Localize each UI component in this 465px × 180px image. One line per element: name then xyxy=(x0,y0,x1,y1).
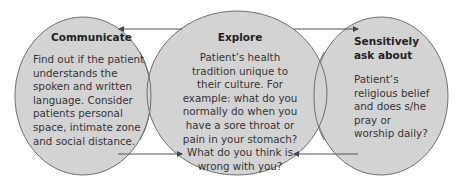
sensitively-ask-body: Patient’s religious belief and does s/he… xyxy=(354,73,434,141)
communicate-title: Communicate xyxy=(51,31,132,45)
sensitively-ask-title: Sensitively ask about xyxy=(354,35,414,62)
explore-title: Explore xyxy=(180,31,300,45)
communicate-body: Find out if the patient understands the … xyxy=(33,53,155,148)
explore-body: Patient’s health tradition unique to the… xyxy=(182,51,298,173)
